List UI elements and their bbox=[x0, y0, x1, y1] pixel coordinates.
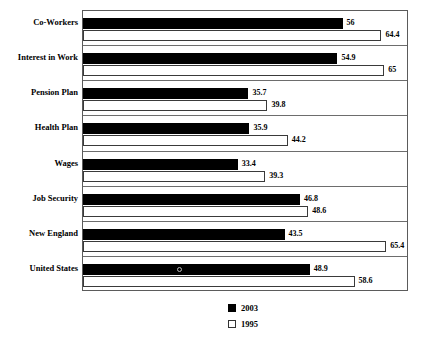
legend-swatch-icon bbox=[228, 320, 236, 328]
bar-row: 65 bbox=[83, 65, 407, 76]
bar-value-label: 64.4 bbox=[385, 29, 399, 41]
bar-row: 44.2 bbox=[83, 135, 407, 146]
bar-2003 bbox=[83, 229, 285, 240]
bar-value-label: 43.5 bbox=[289, 228, 303, 240]
category-label-new-england: New England bbox=[0, 228, 78, 239]
bar-1995 bbox=[83, 171, 265, 182]
bar-value-label: 33.4 bbox=[242, 158, 256, 170]
bar-group: 35.739.8 bbox=[83, 81, 407, 116]
bar-value-label: 48.6 bbox=[312, 205, 326, 217]
bar-value-label: 39.8 bbox=[271, 99, 285, 111]
bar-2003 bbox=[83, 53, 337, 64]
category-label-pension-plan: Pension Plan bbox=[0, 87, 78, 98]
legend-label: 2003 bbox=[241, 303, 258, 313]
bar-row: 35.7 bbox=[83, 88, 407, 99]
stray-circle-artifact bbox=[177, 267, 182, 272]
bar-value-label: 58.6 bbox=[359, 275, 373, 287]
bar-value-label: 56 bbox=[347, 17, 355, 29]
bar-group: 54.965 bbox=[83, 46, 407, 81]
bar-group: 35.944.2 bbox=[83, 116, 407, 151]
bar-row: 64.4 bbox=[83, 30, 407, 41]
bar-row: 54.9 bbox=[83, 53, 407, 64]
bar-2003 bbox=[83, 159, 238, 170]
bar-value-label: 35.9 bbox=[253, 122, 267, 134]
bar-2003 bbox=[83, 18, 343, 29]
legend-label: 1995 bbox=[241, 319, 258, 329]
category-label-health-plan: Health Plan bbox=[0, 122, 78, 133]
bar-row: 48.9 bbox=[83, 264, 407, 275]
bar-group: 5664.4 bbox=[83, 11, 407, 46]
bar-row: 58.6 bbox=[83, 276, 407, 287]
chart-legend: 20031995 bbox=[228, 300, 348, 332]
bar-row: 35.9 bbox=[83, 123, 407, 134]
bar-2003 bbox=[83, 88, 248, 99]
bar-row: 39.3 bbox=[83, 171, 407, 182]
category-label-united-states: United States bbox=[0, 263, 78, 274]
bar-1995 bbox=[83, 241, 386, 252]
bar-row: 56 bbox=[83, 18, 407, 29]
category-label-wages: Wages bbox=[0, 158, 78, 169]
legend-swatch-icon bbox=[228, 304, 236, 312]
bar-2003 bbox=[83, 264, 310, 275]
bar-row: 39.8 bbox=[83, 100, 407, 111]
bar-1995 bbox=[83, 65, 384, 76]
bar-row: 43.5 bbox=[83, 229, 407, 240]
category-axis-labels: Co-WorkersInterest in WorkPension PlanHe… bbox=[0, 10, 78, 291]
bar-row: 48.6 bbox=[83, 206, 407, 217]
bar-2003 bbox=[83, 123, 249, 134]
bar-value-label: 48.9 bbox=[314, 263, 328, 275]
bar-group: 33.439.3 bbox=[83, 152, 407, 187]
bar-1995 bbox=[83, 135, 288, 146]
bar-group: 43.565.4 bbox=[83, 222, 407, 257]
bar-1995 bbox=[83, 30, 381, 41]
bar-value-label: 65 bbox=[388, 64, 396, 76]
bar-group: 46.848.6 bbox=[83, 187, 407, 222]
bar-value-label: 65.4 bbox=[390, 240, 404, 252]
bar-2003 bbox=[83, 194, 300, 205]
plot-area: 5664.454.96535.739.835.944.233.439.346.8… bbox=[82, 10, 408, 291]
legend-item-2003: 2003 bbox=[228, 300, 348, 315]
category-label-interest-in-work: Interest in Work bbox=[0, 52, 78, 63]
bar-value-label: 44.2 bbox=[292, 134, 306, 146]
bar-chart: Co-WorkersInterest in WorkPension PlanHe… bbox=[0, 0, 424, 339]
bar-row: 46.8 bbox=[83, 194, 407, 205]
category-label-co-workers: Co-Workers bbox=[0, 17, 78, 28]
bar-1995 bbox=[83, 100, 267, 111]
bar-1995 bbox=[83, 206, 308, 217]
bar-value-label: 54.9 bbox=[341, 52, 355, 64]
bar-row: 33.4 bbox=[83, 159, 407, 170]
legend-item-1995: 1995 bbox=[228, 316, 348, 331]
bar-value-label: 46.8 bbox=[304, 193, 318, 205]
bar-value-label: 39.3 bbox=[269, 170, 283, 182]
category-label-job-security: Job Security bbox=[0, 193, 78, 204]
bar-row: 65.4 bbox=[83, 241, 407, 252]
bar-value-label: 35.7 bbox=[252, 87, 266, 99]
bar-group: 48.958.6 bbox=[83, 257, 407, 292]
bar-1995 bbox=[83, 276, 355, 287]
